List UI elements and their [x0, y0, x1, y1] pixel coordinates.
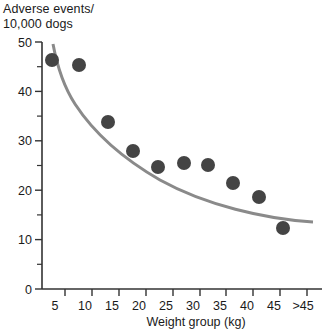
data-point — [276, 221, 290, 235]
x-tick-label: 40 — [240, 299, 254, 313]
x-tick-label: 25 — [159, 299, 173, 313]
data-point — [226, 176, 240, 190]
data-point — [201, 158, 215, 172]
y-tick-label: 40 — [18, 85, 32, 99]
x-tick-label: 30 — [186, 299, 200, 313]
data-point — [101, 115, 115, 129]
x-axis-title-text: Weight group (kg) — [146, 315, 245, 329]
y-axis-tick-labels: 50 40 30 20 10 0 — [18, 36, 32, 297]
trend-curve — [53, 44, 313, 222]
y-tick-label: 10 — [18, 233, 32, 247]
data-point — [177, 156, 191, 170]
x-tick-label: 35 — [213, 299, 227, 313]
data-point — [151, 160, 165, 174]
x-axis-title: Weight group (kg) — [0, 315, 332, 329]
data-point — [252, 190, 266, 204]
x-tick-label: 45 — [267, 299, 281, 313]
chart-canvas: 50 40 30 20 10 0 5 10 15 20 25 3 — [0, 0, 332, 335]
data-point — [45, 53, 59, 67]
data-point — [72, 58, 86, 72]
x-axis-ticks — [65, 289, 307, 296]
x-tick-label: 5 — [52, 299, 59, 313]
x-tick-label: 10 — [78, 299, 92, 313]
data-point — [126, 144, 140, 158]
x-tick-label: >45 — [292, 299, 313, 313]
y-tick-label: 20 — [18, 184, 32, 198]
data-points — [45, 53, 290, 235]
y-tick-label: 0 — [25, 283, 32, 297]
x-tick-label: 20 — [132, 299, 146, 313]
chart-figure: Adverse events/10,000 dogs 50 40 — [0, 0, 332, 335]
y-tick-label: 30 — [18, 134, 32, 148]
x-tick-label: 15 — [105, 299, 119, 313]
x-axis-tick-labels: 5 10 15 20 25 30 35 40 45 >45 — [52, 299, 314, 313]
y-tick-label: 50 — [18, 36, 32, 50]
